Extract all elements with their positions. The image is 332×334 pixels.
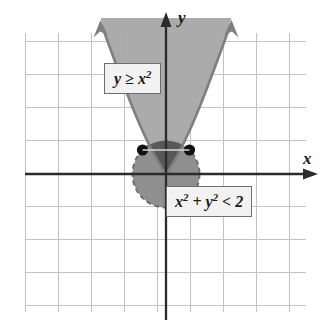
label-circle-x: x: [175, 193, 183, 210]
x-axis-arrowhead: [303, 169, 318, 180]
axes: [25, 22, 307, 320]
label-circle-plus: +: [188, 193, 205, 210]
label-parabola-exponent: 2: [146, 68, 151, 80]
graph-canvas: [0, 0, 332, 334]
label-parabola-base: y ≥ x: [114, 70, 146, 87]
label-circle-inequality: x2 + y2 < 2: [166, 186, 252, 217]
y-axis-label: y: [178, 9, 186, 26]
x-axis-label: x: [303, 150, 312, 167]
label-parabola-inequality: y ≥ x2: [104, 63, 161, 94]
label-circle-rhs: < 2: [218, 193, 243, 210]
label-circle-y: y: [206, 193, 213, 210]
graph-figure: y ≥ x2 x2 + y2 < 2 y x: [0, 0, 332, 334]
